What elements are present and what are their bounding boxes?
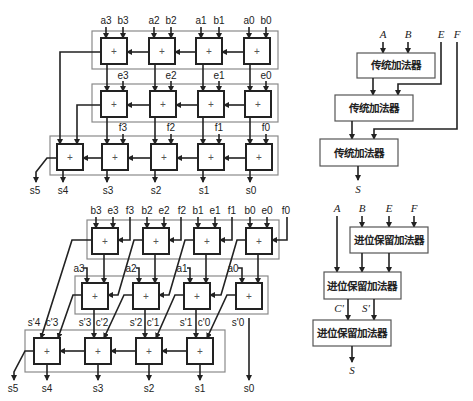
svg-text:B: B [359,202,366,214]
svg-text:+: + [161,152,167,163]
svg-text:s4: s4 [42,383,53,394]
svg-text:s5: s5 [30,185,41,196]
svg-text:s4: s4 [58,185,69,196]
svg-text:s'1: s'1 [180,317,193,328]
svg-text:+: + [95,346,101,357]
svg-text:s0: s0 [244,383,255,394]
svg-text:f3: f3 [119,122,128,133]
svg-text:s'3: s'3 [79,317,92,328]
svg-text:s'0: s'0 [232,317,245,328]
svg-text:+: + [246,291,252,302]
svg-text:s3: s3 [103,185,114,196]
svg-text:s5: s5 [8,383,19,394]
svg-text:b3: b3 [117,15,129,26]
svg-text:进位保留加法器: 进位保留加法器 [317,327,388,339]
svg-text:+: + [254,46,260,57]
svg-text:e1: e1 [209,205,221,216]
svg-text:B: B [405,28,412,40]
svg-text:b3: b3 [90,205,102,216]
svg-text:传统加法器: 传统加法器 [348,102,400,114]
svg-text:b1: b1 [192,205,204,216]
adder-comparison-diagram: + + + + + + + + + + + + + a3 b3 a2 b2 a1… [0,0,473,401]
svg-text:+: + [204,236,210,247]
svg-text:+: + [111,46,117,57]
svg-text:+: + [206,46,212,57]
svg-text:b2: b2 [141,205,153,216]
svg-text:a2: a2 [148,15,160,26]
svg-text:+: + [146,346,152,357]
svg-text:+: + [256,236,262,247]
svg-text:e3: e3 [117,70,129,81]
svg-text:A: A [379,28,387,40]
svg-text:+: + [143,291,149,302]
svg-text:e2: e2 [158,205,170,216]
svg-text:f1: f1 [215,122,224,133]
svg-text:s2: s2 [151,185,162,196]
svg-text:e2: e2 [165,70,177,81]
svg-text:S': S' [362,302,371,314]
svg-text:+: + [92,291,98,302]
svg-text:s2: s2 [144,383,155,394]
svg-text:+: + [153,236,159,247]
carry-save-adder-block-diagram: A B E F 进位保留加法器 进位保留加法器 C' S' 进位保留加法器 S [313,202,428,376]
svg-text:s'4: s'4 [28,317,41,328]
svg-text:s1: s1 [199,185,210,196]
svg-text:进位保留加法器: 进位保留加法器 [327,280,398,292]
svg-text:A: A [333,202,341,214]
svg-text:a1: a1 [195,15,207,26]
svg-text:F: F [453,28,461,40]
svg-text:c'3: c'3 [46,317,59,328]
svg-text:+: + [112,152,118,163]
svg-text:C': C' [334,302,344,314]
svg-text:c'1: c'1 [147,317,160,328]
svg-text:f2: f2 [178,205,187,216]
svg-text:+: + [102,236,108,247]
svg-text:+: + [44,346,50,357]
svg-text:b0: b0 [244,205,256,216]
svg-text:e0: e0 [261,205,273,216]
svg-text:e0: e0 [260,70,272,81]
ripple-adder-array: + + + + + + + + + + + + + a3 b3 a2 b2 a1… [30,15,278,196]
svg-text:s1: s1 [195,383,206,394]
svg-text:+: + [111,99,117,110]
svg-text:e1: e1 [213,70,225,81]
svg-text:f2: f2 [167,122,176,133]
svg-text:a0: a0 [243,15,255,26]
svg-text:s0: s0 [246,185,257,196]
svg-text:s3: s3 [93,383,104,394]
svg-text:f1: f1 [228,205,237,216]
svg-text:+: + [194,291,200,302]
svg-text:+: + [197,346,203,357]
svg-text:+: + [208,99,214,110]
svg-text:+: + [208,152,214,163]
svg-text:s'2: s'2 [130,317,143,328]
svg-text:a2: a2 [125,263,137,274]
conventional-adder-block-diagram: A B E F 传统加法器 传统加法器 传统加法器 S [320,28,461,195]
svg-text:F: F [410,202,418,214]
svg-text:f0: f0 [282,205,291,216]
svg-text:+: + [160,99,166,110]
svg-text:a1: a1 [176,263,188,274]
carry-save-adder-array: + + + + + + + + + + + + b3 e3 f3 b2 e2 f… [8,205,291,394]
svg-text:+: + [67,152,73,163]
svg-text:f0: f0 [262,122,271,133]
svg-text:E: E [437,28,445,40]
svg-text:b1: b1 [213,15,225,26]
svg-text:传统加法器: 传统加法器 [333,147,385,159]
svg-text:+: + [255,99,261,110]
svg-text:+: + [256,152,262,163]
svg-text:a3: a3 [100,15,112,26]
svg-text:+: + [159,46,165,57]
svg-text:S: S [349,364,355,376]
svg-text:c'2: c'2 [96,317,109,328]
svg-text:f3: f3 [126,205,135,216]
svg-text:a0: a0 [227,263,239,274]
svg-text:b0: b0 [260,15,272,26]
svg-text:E: E [385,202,393,214]
svg-text:S: S [355,183,361,195]
svg-text:c'0: c'0 [198,317,211,328]
svg-text:b2: b2 [165,15,177,26]
svg-text:进位保留加法器: 进位保留加法器 [354,234,425,246]
svg-text:e3: e3 [107,205,119,216]
svg-text:传统加法器: 传统加法器 [370,59,422,71]
